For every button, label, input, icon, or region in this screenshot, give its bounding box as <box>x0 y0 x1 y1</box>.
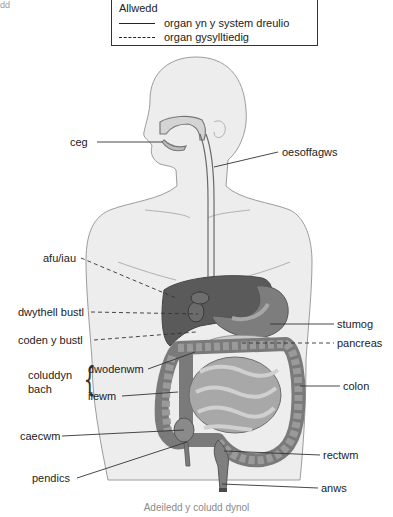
label-bach: bach <box>28 383 52 395</box>
label-pancreas: pancreas <box>337 337 382 349</box>
anus <box>219 488 227 492</box>
label-stumog: stumog <box>337 318 373 330</box>
label-anws: anws <box>321 482 347 494</box>
label-dwythell-bustl: dwythell bustl <box>18 306 84 318</box>
label-dwodenwm: dwodenwm <box>88 363 144 375</box>
label-caecwm: caecwm <box>20 430 60 442</box>
label-ilewm: ilewm <box>88 390 116 402</box>
label-colon: colon <box>343 380 369 392</box>
label-coden-y-bustl: coden y bustl <box>18 334 83 346</box>
label-rectwm: rectwm <box>323 449 358 461</box>
label-oesoffagws: oesoffagws <box>282 146 337 158</box>
small-intestine <box>189 357 281 433</box>
label-pendics: pendics <box>32 472 70 484</box>
label-coluddyn: coluddyn <box>28 369 72 381</box>
label-ceg: ceg <box>70 136 88 148</box>
gall-bladder <box>188 302 204 322</box>
figure-caption: Adeiledd y coludd dynol <box>0 502 393 513</box>
label-afu-iau: afu/iau <box>43 252 76 264</box>
